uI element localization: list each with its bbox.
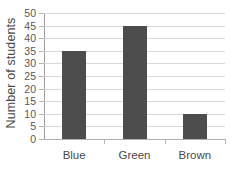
x-axis-tick-mark bbox=[165, 139, 166, 144]
y-axis-tick-mark bbox=[39, 76, 44, 77]
y-axis-tick-label: 50 bbox=[18, 8, 36, 19]
y-axis-tick-labels: 05101520253035404550 bbox=[18, 0, 36, 171]
gridline bbox=[44, 139, 225, 140]
bar bbox=[183, 114, 207, 139]
x-axis-tick-label: Brown bbox=[165, 148, 225, 162]
y-axis-tick-label: 35 bbox=[18, 46, 36, 57]
x-axis-tick-mark bbox=[104, 139, 105, 144]
plot-area bbox=[44, 13, 225, 139]
y-axis-tick-mark bbox=[39, 101, 44, 102]
y-axis-tick-mark bbox=[39, 114, 44, 115]
y-axis-tick-mark bbox=[39, 63, 44, 64]
y-axis-tick-label: 25 bbox=[18, 71, 36, 82]
x-axis-tick-mark bbox=[225, 139, 226, 144]
gridline bbox=[44, 13, 225, 14]
y-axis-tick-label: 15 bbox=[18, 96, 36, 107]
x-axis-tick-label: Green bbox=[104, 148, 164, 162]
x-axis-tick-labels: BlueGreenBrown bbox=[44, 148, 225, 168]
y-axis-tick-label: 0 bbox=[18, 134, 36, 145]
y-axis-tick-label: 30 bbox=[18, 58, 36, 69]
bar bbox=[62, 51, 86, 139]
y-axis-tick-mark bbox=[39, 38, 44, 39]
y-axis-tick-label: 20 bbox=[18, 84, 36, 95]
bar bbox=[123, 26, 147, 139]
y-axis-tick-mark bbox=[39, 51, 44, 52]
y-axis-tick-label: 5 bbox=[18, 121, 36, 132]
y-axis-tick-label: 40 bbox=[18, 33, 36, 44]
bar-chart: Number of students 05101520253035404550 … bbox=[0, 0, 241, 171]
y-axis-tick-mark bbox=[39, 13, 44, 14]
x-axis-tick-label: Blue bbox=[44, 148, 104, 162]
y-axis-tick-mark bbox=[39, 126, 44, 127]
y-axis-tick-mark bbox=[39, 139, 44, 140]
y-axis-tick-label: 45 bbox=[18, 21, 36, 32]
y-axis-title-text: Number of students bbox=[4, 17, 18, 128]
y-axis-tick-mark bbox=[39, 89, 44, 90]
y-axis-tick-label: 10 bbox=[18, 109, 36, 120]
y-axis-tick-mark bbox=[39, 26, 44, 27]
